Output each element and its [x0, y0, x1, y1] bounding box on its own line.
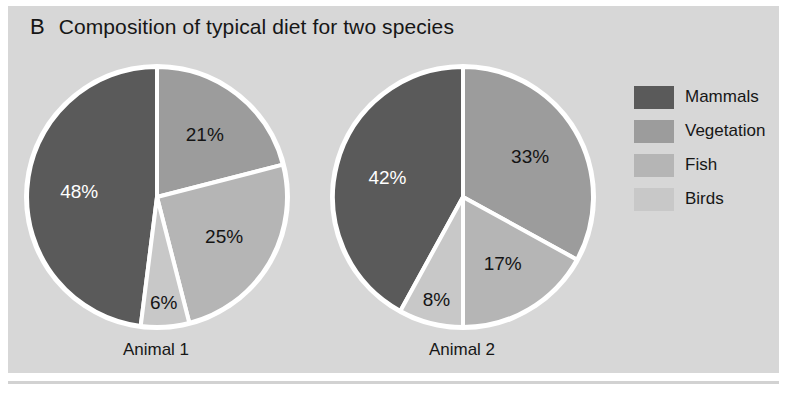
legend-item-birds: Birds — [634, 182, 784, 216]
legend-label-fish: Fish — [685, 155, 717, 175]
pie-value-label: 17% — [484, 253, 522, 274]
legend-label-mammals: Mammals — [685, 87, 759, 107]
pie-value-label: 8% — [423, 289, 451, 310]
legend-item-fish: Fish — [634, 148, 784, 182]
legend-item-mammals: Mammals — [634, 80, 784, 114]
pie-chart-animal-1: 48%21%25%6% — [24, 64, 290, 330]
legend-swatch-vegetation — [634, 120, 674, 143]
pie-svg-animal-1: 48%21%25%6% — [24, 64, 290, 330]
pie-chart-animal-2: 42%33%17%8% — [330, 64, 596, 330]
pie-caption-animal-1: Animal 1 — [76, 340, 236, 360]
page-title: Composition of typical diet for two spec… — [59, 15, 454, 39]
chart-title-row: B Composition of typical diet for two sp… — [30, 14, 454, 40]
legend: Mammals Vegetation Fish Birds — [634, 80, 784, 216]
legend-swatch-mammals — [634, 86, 674, 109]
pie-value-label: 6% — [150, 292, 178, 313]
pie-value-label: 33% — [511, 146, 549, 167]
legend-label-vegetation: Vegetation — [685, 121, 765, 141]
pie-value-label: 42% — [368, 167, 406, 188]
pie-value-label: 21% — [186, 124, 224, 145]
legend-label-birds: Birds — [685, 189, 724, 209]
figure-panel-b: B Composition of typical diet for two sp… — [0, 0, 787, 395]
legend-item-vegetation: Vegetation — [634, 114, 784, 148]
panel-letter: B — [30, 14, 45, 40]
pie-value-label: 48% — [60, 181, 98, 202]
legend-swatch-fish — [634, 154, 674, 177]
pie-svg-animal-2: 42%33%17%8% — [330, 64, 596, 330]
pie-value-label: 25% — [205, 226, 243, 247]
legend-swatch-birds — [634, 188, 674, 211]
pie-caption-animal-2: Animal 2 — [382, 340, 542, 360]
figure-bottom-rule — [8, 381, 779, 384]
